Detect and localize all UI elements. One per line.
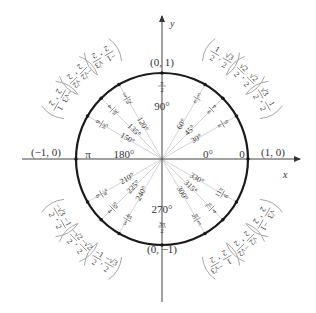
coord-y-denominator: 2: [102, 265, 110, 275]
coord-x-denominator: 2: [47, 211, 57, 219]
coord-label-330: √32,−12: [244, 197, 284, 239]
radian-numerator: 3π: [159, 220, 166, 227]
degree-label-180: 180°: [114, 148, 135, 160]
coord-x-denominator: 2: [75, 62, 84, 71]
point-225: [99, 218, 103, 222]
degree-label-270: 270°: [152, 203, 173, 215]
radian-denominator: 3: [196, 92, 202, 100]
coord-x-denominator: 2: [102, 44, 110, 54]
coord-x-denominator: 2: [220, 248, 228, 258]
radian-label-30: π6: [214, 117, 231, 131]
coord-x-denominator: 2: [208, 53, 216, 63]
coord-x-denominator: 2: [232, 70, 241, 79]
coord-x-denominator: 2: [54, 87, 64, 95]
radian-label-90: π2: [158, 79, 166, 94]
coord-x-denominator: 2: [251, 93, 261, 101]
point-45: [221, 96, 225, 100]
coord-x-denominator: 2: [65, 237, 74, 246]
coord-bottom: (0, −1): [147, 243, 177, 256]
coord-label-60: 12,√32: [200, 37, 242, 77]
coord-label-300: 12,−√32: [200, 241, 242, 281]
coord-y-denominator: 2: [54, 223, 64, 231]
comma: ,: [259, 97, 268, 103]
coord-y-denominator: 2: [75, 247, 84, 256]
y-axis-label: y: [169, 18, 175, 29]
point-90: [160, 71, 164, 75]
coord-y-denominator: 2: [47, 99, 57, 107]
unit-circle-diagram: xy 30°π645°π460°π3120°2π3135°3π4150°5π62…: [0, 0, 316, 313]
point-60: [203, 83, 207, 87]
point-330: [235, 200, 239, 204]
radian-denominator: 3: [122, 92, 128, 100]
point-300: [203, 232, 207, 236]
coord-top: (0, 1): [150, 56, 174, 69]
radian-label-120: 2π3: [120, 90, 134, 107]
coord-y-denominator: 2: [258, 105, 268, 113]
degree-label-90: 90°: [154, 100, 169, 112]
radian-label-300: 5π3: [190, 211, 204, 228]
point-240: [117, 232, 121, 236]
radian-denominator: 6: [221, 118, 229, 125]
point-0: [246, 157, 250, 161]
point-30: [235, 114, 239, 118]
coord-y-denominator: 2: [251, 217, 261, 225]
radian-label-240: 4π3: [120, 211, 134, 228]
point-315: [221, 218, 225, 222]
coord-y-denominator: 2: [65, 72, 74, 81]
coord-right: (1, 0): [261, 146, 285, 159]
coord-y-denominator: 2: [232, 239, 241, 248]
radian-label-60: π3: [190, 90, 204, 107]
coord-x-denominator: 2: [242, 229, 251, 238]
radian-denominator: 2: [160, 227, 163, 234]
radian-label-150: 5π6: [93, 117, 110, 131]
coord-label-135: −√22,√22: [57, 54, 99, 96]
point-135: [99, 96, 103, 100]
point-120: [117, 83, 121, 87]
degree-label-0: 0°: [203, 148, 213, 160]
coord-x-denominator: 2: [90, 258, 98, 268]
coord-label-30: √32,12: [244, 79, 284, 121]
radian-label-270: 3π2: [158, 220, 166, 235]
radian-label-0: 0: [239, 148, 245, 160]
point-180: [74, 157, 78, 161]
radian-numerator: π: [160, 79, 164, 86]
radian-denominator: 3: [196, 219, 202, 227]
coord-y-denominator: 2: [220, 60, 228, 70]
coord-x-denominator: 2: [258, 205, 268, 213]
point-150: [86, 114, 90, 118]
radian-label-180: π: [85, 148, 91, 160]
radian-label-330: 11π6: [213, 185, 231, 201]
radian-denominator: 6: [95, 193, 103, 200]
coord-left: (−1, 0): [31, 146, 61, 159]
coord-y-denominator: 2: [90, 51, 98, 61]
radian-denominator: 3: [122, 219, 128, 227]
coord-y-denominator: 2: [208, 255, 216, 265]
radian-label-210: 7π6: [93, 187, 110, 201]
coord-label-225: −√22,−√22: [57, 221, 99, 263]
x-axis-label: x: [282, 169, 288, 180]
radian-denominator: 2: [160, 86, 163, 93]
point-210: [86, 200, 90, 204]
coord-y-denominator: 2: [242, 80, 251, 89]
